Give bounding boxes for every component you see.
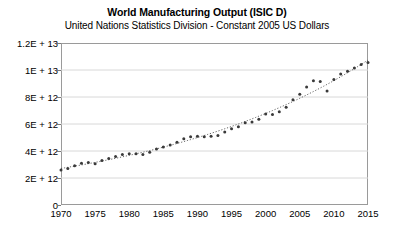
y-axis-tick-label: 6E + 12 (0, 119, 58, 130)
data-point (87, 161, 90, 164)
x-axis-tick-label: 2005 (289, 208, 310, 219)
data-point (169, 143, 172, 146)
data-point (346, 70, 349, 73)
data-point (305, 85, 308, 88)
data-point (353, 66, 356, 69)
data-point (203, 135, 206, 138)
chart-subtitle: United Nations Statistics Division - Con… (0, 20, 394, 31)
chart-container: World Manufacturing Output (ISIC D) Unit… (0, 0, 394, 244)
data-point (257, 118, 260, 121)
y-axis-tick-mark (57, 43, 61, 44)
data-point (210, 135, 213, 138)
data-point (182, 137, 185, 140)
x-axis-tick-label: 1990 (187, 208, 208, 219)
data-point (128, 152, 131, 155)
x-axis-tick-label: 2000 (255, 208, 276, 219)
data-point (298, 93, 301, 96)
data-point (367, 61, 370, 64)
data-point (360, 63, 363, 66)
y-axis-tick-mark (57, 205, 61, 206)
y-axis-tick-mark (57, 97, 61, 98)
data-point (278, 110, 281, 113)
data-point (189, 135, 192, 138)
data-point-series (60, 61, 370, 171)
y-axis-labels: 02E + 124E + 126E + 128E + 121E + 131.2E… (0, 0, 58, 244)
x-axis-tick-label: 1980 (119, 208, 140, 219)
data-point (73, 164, 76, 167)
trendline (61, 60, 368, 168)
data-point (60, 168, 63, 171)
x-axis-tick-label: 2015 (357, 208, 378, 219)
data-point (216, 134, 219, 137)
data-point (135, 152, 138, 155)
data-point (291, 98, 294, 101)
data-point (66, 167, 69, 170)
data-point (237, 125, 240, 128)
data-point (271, 113, 274, 116)
x-axis-tick-label: 2010 (323, 208, 344, 219)
data-point (94, 162, 97, 165)
y-axis-tick-label: 1E + 13 (0, 65, 58, 76)
y-axis-tick-label: 8E + 12 (0, 92, 58, 103)
data-point (319, 80, 322, 83)
data-point (312, 79, 315, 82)
data-point (244, 121, 247, 124)
data-point (141, 153, 144, 156)
data-point (251, 120, 254, 123)
data-point (107, 157, 110, 160)
data-point (285, 106, 288, 109)
data-point (326, 89, 329, 92)
data-point (175, 141, 178, 144)
y-axis-tick-mark (57, 178, 61, 179)
data-point (196, 135, 199, 138)
chart-title: World Manufacturing Output (ISIC D) (0, 6, 394, 18)
data-point (114, 155, 117, 158)
plot-area (61, 43, 368, 205)
x-axis-tick-label: 1995 (221, 208, 242, 219)
data-point (80, 162, 83, 165)
y-axis-tick-mark (57, 151, 61, 152)
data-point (223, 131, 226, 134)
data-point (264, 112, 267, 115)
data-point (230, 127, 233, 130)
y-axis-tick-mark (57, 70, 61, 71)
x-axis-tick-label: 1975 (85, 208, 106, 219)
data-point (121, 153, 124, 156)
data-point (332, 78, 335, 81)
data-point (339, 73, 342, 76)
y-axis-tick-label: 2E + 12 (0, 173, 58, 184)
y-axis-tick-label: 4E + 12 (0, 146, 58, 157)
y-axis-tick-label: 1.2E + 13 (0, 38, 58, 49)
x-axis-tick-label: 1985 (153, 208, 174, 219)
y-axis-tick-label: 0 (0, 200, 58, 211)
data-point (155, 147, 158, 150)
x-axis-tick-label: 1970 (50, 208, 71, 219)
data-point (100, 159, 103, 162)
data-point (148, 151, 151, 154)
y-axis-tick-mark (57, 124, 61, 125)
data-point (162, 145, 165, 148)
